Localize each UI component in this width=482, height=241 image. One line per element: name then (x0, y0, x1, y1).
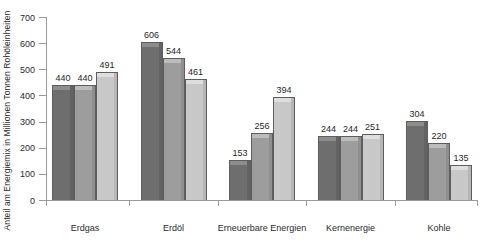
bar-edge-shade (358, 137, 361, 200)
x-tick (46, 201, 47, 206)
bar-edge-shade (269, 134, 272, 200)
x-tick (306, 201, 307, 206)
bar-value-label: 491 (99, 60, 114, 70)
x-tick (477, 201, 478, 206)
bar-value-label: 153 (232, 148, 247, 158)
bar-chart: Anteil am Energiemix in Millionen Tonnen… (0, 0, 482, 241)
bar: 394 (273, 97, 295, 200)
bar: 135 (450, 165, 472, 200)
y-tick-label: 600 (20, 39, 35, 49)
y-tick-label: 300 (20, 117, 35, 127)
bar-edge-shade (203, 80, 206, 200)
bar: 440 (74, 85, 96, 200)
plot-area: 7006005004003002001000 44044049160654446… (46, 17, 478, 201)
x-tick (395, 201, 396, 206)
y-tick: 100 (39, 174, 46, 175)
bar-value-label: 244 (321, 124, 336, 134)
y-tick: 0 (39, 200, 46, 201)
y-axis-title: Anteil am Energiemix in Millionen Tonnen… (0, 0, 14, 241)
bar-value-label: 394 (276, 85, 291, 95)
bar-edge-shade (114, 73, 117, 200)
bar-edge-shade (291, 98, 294, 200)
bar: 220 (428, 143, 450, 201)
y-tick-label: 200 (20, 143, 35, 153)
bar-value-label: 544 (166, 46, 181, 56)
bar-edge-shade (446, 144, 449, 201)
bar: 440 (52, 85, 74, 200)
bar-value-label: 440 (55, 73, 70, 83)
bar: 251 (362, 134, 384, 200)
y-tick: 200 (39, 148, 46, 149)
bar-edge-shade (380, 135, 383, 200)
x-axis-line (46, 200, 478, 201)
bar-value-label: 256 (254, 121, 269, 131)
bar-value-label: 220 (431, 131, 446, 141)
bar-value-label: 251 (365, 122, 380, 132)
y-tick: 300 (39, 122, 46, 123)
x-category-label: Kernenergie (326, 223, 375, 233)
bar-edge-shade (336, 137, 339, 200)
bar-edge-shade (424, 122, 427, 200)
y-tick: 500 (39, 69, 46, 70)
y-tick-label: 400 (20, 91, 35, 101)
y-tick-label: 100 (20, 169, 35, 179)
bar-value-label: 135 (453, 153, 468, 163)
bar: 244 (340, 136, 362, 200)
y-tick-label: 700 (20, 13, 35, 23)
bar-edge-shade (468, 166, 471, 200)
bar-edge-shade (159, 43, 162, 200)
x-category-label: Kohle (427, 223, 450, 233)
bar: 153 (229, 160, 251, 200)
bar-value-label: 304 (409, 109, 424, 119)
x-tick (218, 201, 219, 206)
bar: 491 (96, 72, 118, 200)
bar-value-label: 440 (77, 73, 92, 83)
x-category-label: Erdöl (163, 223, 184, 233)
bar-value-label: 244 (343, 124, 358, 134)
y-tick-label: 0 (30, 196, 35, 206)
bar: 461 (185, 79, 207, 200)
bar: 544 (163, 58, 185, 200)
bar-edge-shade (92, 86, 95, 200)
bar: 606 (141, 42, 163, 200)
bar: 244 (318, 136, 340, 200)
bar-edge-shade (247, 161, 250, 200)
bar: 304 (406, 121, 428, 200)
y-tick: 700 (39, 17, 46, 18)
y-axis-line (46, 17, 47, 201)
bar-edge-shade (181, 59, 184, 200)
y-tick-label: 500 (20, 65, 35, 75)
bar: 256 (251, 133, 273, 200)
x-category-label: Erdgas (71, 223, 100, 233)
y-tick: 600 (39, 43, 46, 44)
x-tick (129, 201, 130, 206)
x-category-label: Erneuerbare Energien (218, 223, 307, 233)
bar-edge-shade (70, 86, 73, 200)
bar-value-label: 606 (144, 30, 159, 40)
bar-value-label: 461 (188, 67, 203, 77)
y-tick: 400 (39, 95, 46, 96)
